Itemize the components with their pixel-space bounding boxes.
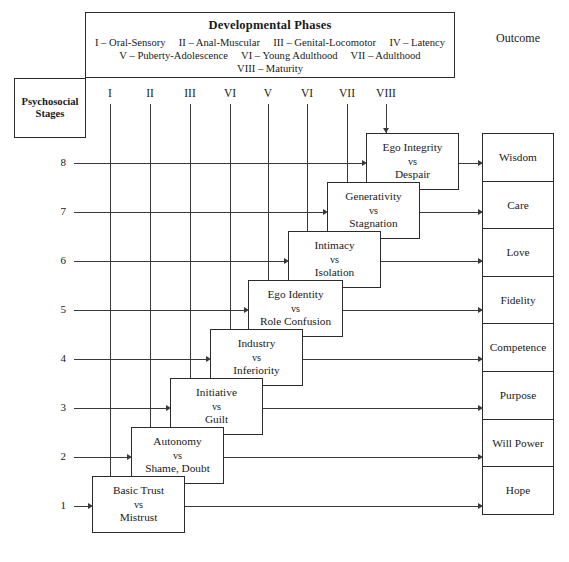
outcome-column: Wisdom Care Love Fidelity Competence Pur… (482, 133, 554, 515)
stage-2-positive: Autonomy (153, 435, 201, 448)
outcome-box-hope: Hope (482, 466, 554, 515)
row-line-in-7 (74, 212, 325, 213)
row-line-out-7 (411, 212, 486, 213)
psychosocial-stages-label-line-1: Psychosocial (21, 96, 78, 108)
stage-1-vs: vs (134, 499, 143, 511)
outcome-box-love: Love (482, 228, 554, 277)
row-line-out-4 (295, 359, 486, 360)
developmental-phases-line-3: VIII – Maturity (237, 63, 303, 75)
column-header-7: VII (334, 87, 360, 99)
developmental-phases-title: Developmental Phases (208, 18, 331, 33)
outcome-box-fidelity: Fidelity (482, 276, 554, 325)
stage-1-negative: Mistrust (120, 511, 158, 524)
stage-number-3: 3 (48, 401, 66, 413)
stage-3-positive: Initiative (196, 386, 237, 399)
stage-5-positive: Ego Identity (267, 288, 323, 301)
column-line-2 (150, 104, 151, 453)
developmental-phases-line-2: V – Puberty-Adolescence VI – Young Adult… (119, 50, 420, 62)
stage-2-negative: Shame, Doubt (145, 462, 210, 475)
stage-8-positive: Ego Integrity (383, 141, 443, 154)
stage-1-positive: Basic Trust (113, 484, 164, 497)
stage-7-positive: Generativity (345, 190, 401, 203)
column-header-5: V (255, 87, 281, 99)
psychosocial-stages-label-line-2: Stages (36, 108, 65, 120)
column-line-5 (268, 104, 269, 306)
row-line-out-6 (372, 261, 486, 262)
row-line-out-5 (334, 310, 486, 311)
row-line-out-1 (177, 506, 486, 507)
stage-number-6: 6 (48, 254, 66, 266)
column-header-8: VIII (373, 87, 399, 99)
stage-number-4: 4 (48, 352, 66, 364)
column-header-3: III (177, 87, 203, 99)
column-line-4 (230, 104, 231, 355)
erikson-psychosocial-stages-diagram: Developmental Phases I – Oral-Sensory II… (0, 0, 569, 562)
stage-8-vs: vs (408, 156, 417, 168)
outcome-box-care: Care (482, 181, 554, 230)
row-line-out-2 (216, 457, 486, 458)
developmental-phases-box: Developmental Phases I – Oral-Sensory II… (85, 12, 455, 78)
stage-6-positive: Intimacy (314, 239, 354, 252)
stage-3-negative: Guilt (205, 413, 228, 426)
row-line-in-6 (74, 261, 286, 262)
column-header-2: II (137, 87, 163, 99)
stage-8-negative: Despair (395, 168, 430, 181)
stage-4-positive: Industry (238, 337, 276, 350)
row-line-in-3 (74, 408, 168, 409)
stage-7-vs: vs (369, 205, 378, 217)
stage-number-1: 1 (48, 499, 66, 511)
row-line-in-4 (74, 359, 208, 360)
stage-box-1: Basic Trust vs Mistrust (92, 476, 185, 533)
stage-6-vs: vs (330, 254, 339, 266)
row-line-in-2 (74, 457, 129, 458)
stage-4-vs: vs (252, 352, 261, 364)
stage-7-negative: Stagnation (349, 217, 397, 230)
outcome-box-wisdom: Wisdom (482, 133, 554, 182)
outcome-column-title: Outcome (478, 31, 558, 46)
developmental-phases-line-1: I – Oral-Sensory II – Anal-Muscular III … (95, 37, 445, 49)
stage-number-5: 5 (48, 303, 66, 315)
column-header-1: I (97, 87, 123, 99)
stage-5-vs: vs (291, 303, 300, 315)
row-line-in-8 (74, 163, 364, 164)
stage-3-vs: vs (212, 401, 221, 413)
column-header-6: VI (294, 87, 320, 99)
outcome-box-will-power: Will Power (482, 419, 554, 468)
stage-4-negative: Inferiority (233, 364, 279, 377)
stage-5-negative: Role Confusion (260, 315, 331, 328)
row-line-out-3 (256, 408, 486, 409)
stage-number-7: 7 (48, 205, 66, 217)
stage-number-8: 8 (48, 156, 66, 168)
row-line-in-5 (74, 310, 246, 311)
stage-6-negative: Isolation (315, 266, 355, 279)
outcome-box-purpose: Purpose (482, 371, 554, 420)
stage-number-2: 2 (48, 450, 66, 462)
outcome-box-competence: Competence (482, 323, 554, 372)
column-header-4: VI (217, 87, 243, 99)
stage-2-vs: vs (173, 450, 182, 462)
psychosocial-stages-label-box: Psychosocial Stages (14, 78, 86, 138)
